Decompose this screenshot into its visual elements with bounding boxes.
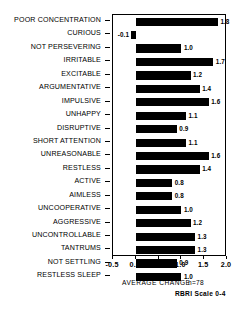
x-axis-tick-label: 0.5 [152,260,163,270]
category-label: IMPULSIVE [0,95,104,108]
bar-value-label: 1.7 [216,57,225,67]
category-tickmark [105,108,112,121]
bar-row: 1.6 [113,149,225,162]
category-tickmark [105,189,112,202]
bar-value-label: 1.0 [184,43,193,53]
bar-row: 1.2 [113,217,225,230]
bar-value-label: 1.3 [198,232,207,242]
bar [136,206,182,214]
bar-value-label: 0.9 [179,124,188,134]
category-tickmark [105,216,112,229]
bar [136,98,209,106]
bar [136,179,172,187]
category-tickmark [105,148,112,161]
category-label: ACTIVE [0,175,104,188]
bar-row: 1.7 [113,55,225,68]
bar-row: 1.4 [113,82,225,95]
category-tickmark [105,14,112,27]
bar-row: 0.8 [113,176,225,189]
bar [136,246,195,254]
bar-value-label: 1.6 [211,151,220,161]
bar-value-label: 1.1 [188,111,197,121]
x-axis-tick-label: 1.0 [175,260,186,270]
bar [136,71,191,79]
bar-row: 1.0 [113,42,225,55]
x-axis-tick-label: 1.5 [198,260,209,270]
bar-row: 1.1 [113,109,225,122]
plot-area: 1.8-0.11.01.71.21.41.61.10.91.11.61.40.8… [112,14,226,256]
bar-value-label: -0.1 [118,30,129,40]
bar [136,85,200,93]
category-label: POOR CONCENTRATION [0,14,104,27]
bar [136,192,172,200]
bar-row: 1.3 [113,230,225,243]
x-axis-tick-labels: -0.50.00.51.01.52.0 [0,260,248,272]
bar-value-label: 1.2 [193,218,202,228]
scale-note-annotation: RBRI Scale 0-4 [175,288,226,299]
bar-rows: 1.8-0.11.01.71.21.41.61.10.91.11.61.40.8… [113,15,225,255]
category-tickmark-column [105,14,112,283]
category-label-column: POOR CONCENTRATIONCURIOUSNOT PERSEVERING… [0,14,104,283]
category-tickmark [105,162,112,175]
category-tickmark [105,95,112,108]
bar-value-label: 1.8 [220,17,229,27]
bar [136,44,182,52]
sample-size-annotation: n=78 [188,277,204,288]
category-tickmark [105,135,112,148]
bar-row: 1.8 [113,15,225,28]
category-tickmark [105,27,112,40]
bar-row: 1.6 [113,96,225,109]
bar [136,233,195,241]
category-label: DISRUPTIVE [0,122,104,135]
bar-row: 1.3 [113,243,225,256]
category-tickmark [105,54,112,67]
category-label: UNCONTROLLABLE [0,229,104,242]
x-axis-title: AVERAGE CHANGE [122,277,190,288]
x-axis-tickmark [203,256,204,259]
bar-chart: POOR CONCENTRATIONCURIOUSNOT PERSEVERING… [0,0,248,314]
category-label: RESTLESS [0,162,104,175]
category-tickmark [105,41,112,54]
x-axis-tickmark [135,256,136,259]
bar [136,139,186,147]
bar-value-label: 1.0 [184,205,193,215]
bar [136,58,214,66]
category-tickmark [105,175,112,188]
bar-value-label: 1.3 [198,245,207,255]
x-axis-tickmark [226,256,227,259]
bar-value-label: 1.6 [211,97,220,107]
bar-row: 1.1 [113,136,225,149]
bar-row: 0.8 [113,190,225,203]
x-axis-tick-label: 0.0 [130,260,141,270]
category-label: UNHAPPY [0,108,104,121]
category-tickmark [105,68,112,81]
bar [131,31,136,39]
category-tickmark [105,81,112,94]
bar-row: 0.9 [113,123,225,136]
bar [136,18,218,26]
category-label: SHORT ATTENTION [0,135,104,148]
x-axis-tickmark [112,256,113,259]
x-axis-tickmark [180,256,181,259]
bar-row: 1.4 [113,163,225,176]
category-tickmark [105,122,112,135]
category-tickmark [105,229,112,242]
category-label: CURIOUS [0,27,104,40]
bar-value-label: 1.4 [202,84,211,94]
category-label: IRRITABLE [0,54,104,67]
category-label: TANTRUMS [0,242,104,255]
bar [136,165,200,173]
bar [136,112,186,120]
category-tickmark [105,202,112,215]
bar-row: 1.2 [113,69,225,82]
category-label: NOT PERSEVERING [0,41,104,54]
bar [136,219,191,227]
category-label: UNCOOPERATIVE [0,202,104,215]
category-tickmark [105,242,112,255]
x-axis-tick-label: -0.5 [105,260,118,270]
category-label: AIMLESS [0,189,104,202]
category-label: ARGUMENTATIVE [0,81,104,94]
category-label: AGGRESSIVE [0,216,104,229]
chart-footer: AVERAGE CHANGE n=78 [0,277,248,288]
bar-value-label: 0.8 [175,178,184,188]
